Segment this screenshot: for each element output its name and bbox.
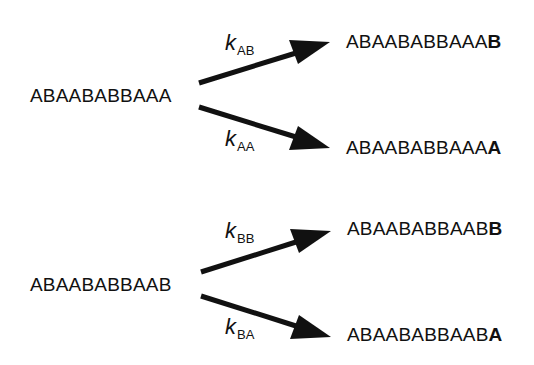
added-monomer: A — [488, 137, 502, 158]
source-sequence-1: ABAABABBAAA — [30, 86, 172, 105]
product-prefix: ABAABABBAAB — [347, 218, 489, 239]
rate-symbol: k — [225, 314, 236, 339]
product-prefix: ABAABABBAAB — [347, 324, 489, 345]
product-prefix: ABAABABBAAA — [346, 31, 488, 52]
product-prefix: ABAABABBAAA — [346, 137, 488, 158]
added-monomer: B — [489, 218, 503, 239]
rate-label-kbb: kBB — [225, 220, 254, 245]
rate-subscript: BA — [237, 327, 254, 342]
arrow-icon-kab — [199, 40, 330, 83]
rate-symbol: k — [225, 218, 236, 243]
rate-symbol: k — [225, 126, 236, 151]
product-sequence-kba: ABAABABBAABA — [347, 325, 503, 344]
arrow-icon-kaa — [199, 107, 330, 150]
arrows-layer — [0, 0, 534, 365]
rate-label-kaa: kAA — [225, 128, 254, 153]
product-sequence-kbb: ABAABABBAABB — [347, 219, 503, 238]
rate-symbol: k — [225, 30, 236, 55]
rate-subscript: AB — [237, 43, 254, 58]
rate-subscript: BB — [237, 231, 254, 246]
product-sequence-kaa: ABAABABBAAAA — [346, 138, 502, 157]
rate-label-kba: kBA — [225, 316, 254, 341]
rate-label-kab: kAB — [225, 32, 254, 57]
source-sequence-2: ABAABABBAAB — [30, 275, 172, 294]
rate-subscript: AA — [237, 139, 254, 154]
added-monomer: A — [489, 324, 503, 345]
arrow-icon-kbb — [201, 229, 331, 272]
arrow-icon-kba — [201, 296, 331, 339]
product-sequence-kab: ABAABABBAAAB — [346, 32, 502, 51]
added-monomer: B — [488, 31, 502, 52]
